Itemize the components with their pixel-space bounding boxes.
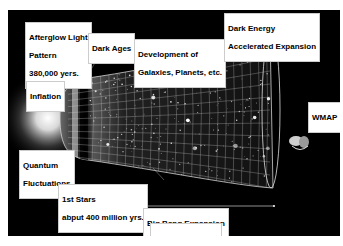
star [151, 123, 152, 124]
star [184, 173, 185, 174]
label-inflation: Inflation [26, 81, 65, 112]
star [190, 122, 191, 123]
star [241, 78, 242, 79]
label-afterglow: Afterglow Light Pattern 380,000 yers. [25, 22, 92, 89]
star [242, 147, 244, 149]
star [216, 150, 218, 152]
star [95, 90, 97, 92]
star [195, 147, 196, 148]
star [179, 130, 181, 132]
star [260, 156, 261, 157]
star [260, 80, 261, 81]
star [217, 171, 218, 172]
star [219, 97, 220, 98]
star [244, 111, 245, 112]
star [119, 74, 120, 75]
star [105, 81, 107, 83]
star [121, 84, 123, 86]
star [139, 166, 140, 167]
star [141, 146, 142, 147]
star [109, 114, 110, 115]
label-line: Development of [138, 50, 222, 59]
star [215, 91, 216, 92]
star [135, 146, 136, 147]
star [188, 162, 189, 163]
star [174, 118, 175, 119]
label-line: Pattern [29, 51, 88, 60]
star [179, 164, 180, 165]
label-age: 13.7 billion years [150, 223, 222, 236]
star [231, 181, 232, 182]
star [229, 171, 230, 172]
label-line: 380,000 yers. [29, 69, 88, 78]
star [126, 144, 127, 145]
star [211, 170, 212, 171]
star [169, 169, 170, 170]
label-line: 1st Stars [62, 195, 144, 204]
star [218, 103, 219, 104]
star [106, 72, 107, 73]
star [92, 82, 93, 83]
star [213, 129, 214, 130]
star [133, 139, 134, 140]
star [240, 104, 241, 105]
star [227, 108, 228, 109]
star [266, 146, 270, 150]
star [253, 116, 254, 117]
star [150, 137, 151, 138]
star [126, 119, 127, 120]
star [244, 115, 245, 116]
star [223, 115, 224, 116]
star [95, 72, 98, 75]
star [249, 87, 250, 88]
star [106, 143, 109, 146]
star [112, 68, 113, 69]
star [129, 75, 131, 77]
star [100, 93, 101, 94]
star [195, 134, 196, 135]
star [160, 136, 161, 137]
star [226, 70, 227, 71]
star [266, 129, 267, 130]
star [132, 121, 133, 122]
star [172, 158, 173, 159]
star [151, 95, 155, 99]
star [218, 129, 219, 130]
star [113, 84, 115, 86]
star [246, 158, 247, 159]
star [134, 114, 135, 115]
star [134, 131, 136, 133]
star [242, 167, 243, 168]
star [249, 98, 250, 99]
star [164, 92, 165, 93]
star [126, 128, 127, 129]
star [165, 129, 166, 130]
star [144, 114, 145, 115]
star [113, 139, 115, 141]
star [232, 141, 233, 142]
star [95, 117, 96, 118]
star [186, 118, 190, 122]
star [204, 145, 205, 146]
star [266, 73, 267, 74]
star [153, 94, 155, 96]
label-development: Development of Galaxies, Planets, etc. [134, 39, 226, 88]
star [123, 69, 124, 70]
label-line: WMAP [312, 113, 337, 122]
star [120, 68, 124, 72]
star [239, 111, 241, 113]
star [130, 146, 131, 147]
star [90, 115, 91, 116]
star [138, 125, 139, 126]
label-line: Quantum [23, 161, 71, 170]
star [205, 171, 206, 172]
star [142, 165, 143, 166]
star [98, 142, 99, 143]
wmap-satellite-icon [289, 136, 309, 150]
star [252, 118, 253, 119]
star [153, 103, 154, 104]
star [217, 105, 218, 106]
star [124, 131, 125, 132]
star [161, 153, 162, 154]
star [110, 115, 111, 116]
